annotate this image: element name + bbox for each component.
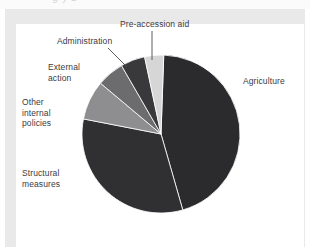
pie-chart: Agriculture Structural measures Other in… (0, 0, 310, 251)
slice-label-administration: Administration (57, 36, 112, 47)
leader-line-administration (108, 48, 127, 67)
slice-label-agriculture: Agriculture (243, 76, 285, 87)
slice-label-pre-accession-aid: Pre-accession aid (120, 19, 189, 30)
slice-label-external-action: External action (48, 62, 80, 83)
pie-slice-group (82, 55, 240, 213)
slice-label-other-internal-policies: Other internal policies (22, 97, 51, 129)
slice-label-structural-measures: Structural measures (22, 168, 60, 189)
